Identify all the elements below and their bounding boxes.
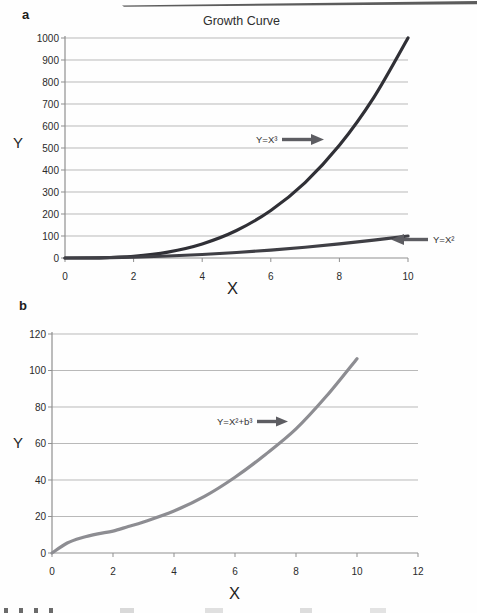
annotation-y-x3-text: Y=X³ bbox=[256, 134, 277, 145]
x-tick-label: 8 bbox=[293, 566, 299, 577]
chart-a-canvas: 010020030040050060070080090010000246810 bbox=[0, 0, 477, 300]
x-tick-label: 6 bbox=[232, 566, 238, 577]
chart-a-ylabel: Y bbox=[13, 134, 23, 151]
y-tick-label: 0 bbox=[53, 253, 59, 264]
series-curve-b bbox=[52, 359, 357, 553]
x-tick-label: 8 bbox=[337, 271, 343, 282]
y-tick-label: 100 bbox=[29, 365, 46, 376]
arrow-left-icon bbox=[391, 233, 429, 246]
x-tick-label: 2 bbox=[131, 271, 137, 282]
x-tick-label: 10 bbox=[351, 566, 363, 577]
series-curve-a bbox=[65, 236, 408, 258]
y-tick-label: 80 bbox=[35, 402, 47, 413]
annotation-y-x3: Y=X³ bbox=[256, 133, 325, 146]
x-tick-label: 0 bbox=[62, 271, 68, 282]
y-tick-label: 0 bbox=[40, 548, 46, 559]
annotation-y-x2: Y=X² bbox=[391, 233, 454, 246]
figure-page: a Growth Curve 0100200300400500600700800… bbox=[0, 0, 477, 613]
y-tick-label: 900 bbox=[42, 55, 59, 66]
chart-b-canvas: 020406080100120024681012 bbox=[0, 300, 477, 613]
y-tick-label: 500 bbox=[42, 143, 59, 154]
y-tick-label: 300 bbox=[42, 187, 59, 198]
y-tick-label: 120 bbox=[29, 329, 46, 340]
arrow-right-icon bbox=[256, 415, 289, 428]
y-tick-label: 100 bbox=[42, 231, 59, 242]
x-tick-label: 2 bbox=[110, 566, 116, 577]
x-tick-label: 10 bbox=[402, 271, 414, 282]
annotation-y-x2-text: Y=X² bbox=[433, 234, 454, 245]
y-tick-label: 700 bbox=[42, 99, 59, 110]
chart-a-xlabel: X bbox=[227, 279, 238, 298]
y-tick-label: 600 bbox=[42, 121, 59, 132]
y-tick-label: 60 bbox=[35, 438, 47, 449]
x-tick-label: 4 bbox=[171, 566, 177, 577]
annotation-y-x2-b3: Y=X²+b³ bbox=[217, 415, 289, 428]
annotation-y-x2-b3-text: Y=X²+b³ bbox=[217, 416, 252, 427]
y-tick-label: 40 bbox=[35, 475, 47, 486]
x-tick-label: 4 bbox=[199, 271, 205, 282]
chart-b-ylabel: Y bbox=[13, 434, 23, 451]
y-tick-label: 1000 bbox=[37, 33, 60, 44]
x-tick-label: 12 bbox=[412, 566, 424, 577]
arrow-right-icon bbox=[281, 133, 325, 146]
x-tick-label: 0 bbox=[49, 566, 55, 577]
chart-b-xlabel: X bbox=[229, 584, 240, 603]
y-tick-label: 200 bbox=[42, 209, 59, 220]
y-tick-label: 400 bbox=[42, 165, 59, 176]
y-tick-label: 20 bbox=[35, 511, 47, 522]
y-tick-label: 800 bbox=[42, 77, 59, 88]
x-tick-label: 6 bbox=[268, 271, 274, 282]
